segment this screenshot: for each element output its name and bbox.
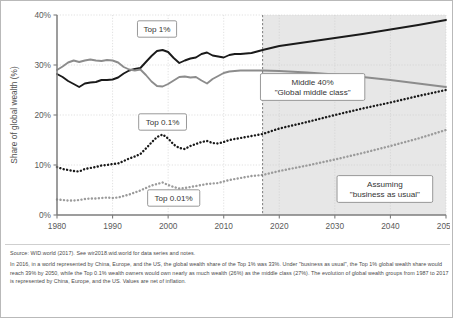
y-tick-label: 20% [34, 110, 51, 120]
description-note: In 2016, in a world represented by China… [5, 260, 450, 286]
y-axis-title: Share of global wealth (%) [9, 66, 19, 164]
x-tick-label: 2030 [326, 221, 345, 231]
x-tick-label: 1980 [48, 221, 67, 231]
y-tick-label: 30% [34, 60, 51, 70]
chart-area: 0%10%20%30%40%19801990200020102020203020… [5, 7, 450, 245]
middle40-callout-text-2: "Global middle class" [275, 88, 351, 97]
top01-callout: Top 0.1% [139, 114, 187, 130]
figure-footer: Source: WID.world (2017). See wir2018.wi… [5, 244, 450, 316]
middle40-callout-text-1: Middle 40% [291, 78, 333, 87]
top1-callout: Top 1% [137, 21, 176, 37]
assumption-callout-text-2: "business as usual" [350, 190, 420, 199]
y-tick-label: 40% [34, 10, 51, 20]
top01-callout-text-1: Top 0.1% [146, 118, 180, 127]
x-tick-label: 2020 [270, 221, 289, 231]
x-tick-label: 2050 [437, 221, 450, 231]
figure-frame: 0%10%20%30%40%19801990200020102020203020… [0, 0, 453, 318]
x-tick-label: 2040 [381, 221, 400, 231]
middle40-callout: Middle 40%"Global middle class" [260, 74, 364, 101]
x-tick-label: 2000 [159, 221, 178, 231]
top001-callout: Top 0.01% [148, 190, 200, 206]
y-axis-title: Share of global wealth (%) [9, 66, 19, 164]
y-tick-label: 0% [39, 210, 52, 220]
source-note: Source: WID.world (2017). See wir2018.wi… [5, 249, 450, 258]
top1-callout-text-1: Top 1% [144, 25, 171, 34]
x-tick-label: 1990 [103, 221, 122, 231]
x-tick-label: 2010 [214, 221, 233, 231]
top001-callout-text-1: Top 0.01% [155, 194, 193, 203]
y-tick-label: 10% [34, 160, 51, 170]
wealth-share-line-chart: 0%10%20%30%40%19801990200020102020203020… [5, 7, 450, 245]
assumption-callout-text-1: Assuming [367, 180, 403, 189]
assumption-callout: Assuming"business as usual" [337, 176, 433, 203]
